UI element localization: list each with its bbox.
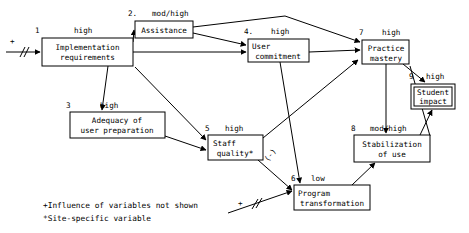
node-strength-assistance: mod/high [152, 9, 189, 18]
edge-staff-quality-to-practice-mastery [263, 60, 358, 138]
node-adequacy-of-user-preparation[interactable]: Adequacy of user preparation 3 high [66, 101, 165, 138]
node-line1-stabilization: Stabilization [362, 140, 421, 149]
node-staff-quality[interactable]: Staff quality* 5 high [205, 124, 263, 160]
external-input-sign-program: + [238, 199, 243, 208]
node-strength-practice-mastery: high [382, 28, 400, 37]
node-implementation-requirements[interactable]: Implementation requirements 1 high [35, 26, 133, 66]
node-number-assistance: 2. [128, 9, 137, 18]
edge-program-transformation-to-stabilization [352, 163, 375, 185]
node-line1-implementation-requirements: Implementation [55, 43, 119, 52]
node-line1-practice-mastery: Practice [368, 44, 405, 53]
node-line1-program-transformation: Program [298, 189, 330, 198]
causal-network-diagram: Implementation requirements 1 high Assis… [0, 0, 469, 233]
node-number-implementation-requirements: 1 [35, 26, 40, 35]
node-line2-student-impact: impact [419, 97, 446, 106]
node-number-adequacy: 3 [66, 101, 71, 110]
node-strength-user-commitment: high [271, 27, 289, 36]
node-number-user-commitment: 4. [244, 27, 253, 36]
node-strength-staff-quality: high [225, 124, 243, 133]
node-line1-adequacy: Adequacy of [92, 116, 142, 125]
node-line2-staff-quality: quality* [217, 149, 254, 158]
node-line1-staff-quality: Staff [213, 139, 236, 148]
node-line2-user-commitment: commitment [255, 52, 301, 61]
legend-line-1: +Influence of variables not shown [43, 201, 198, 210]
node-strength-adequacy: high [100, 101, 118, 110]
node-strength-program-transformation: low [311, 174, 325, 183]
node-line2-program-transformation: transformation [300, 199, 364, 208]
edge-assistance-to-user-commitment [193, 33, 246, 45]
node-number-program-transformation: 6 [291, 174, 296, 183]
node-line1-student-impact: Student [417, 88, 449, 97]
node-number-stabilization: 8 [351, 124, 356, 133]
node-student-impact[interactable]: Student impact 9 high [409, 72, 455, 109]
edge-user-commitment-to-program-transformation [280, 62, 300, 183]
node-strength-stabilization: mod/high [370, 124, 407, 133]
edge-adequacy-to-staff-quality [165, 136, 206, 150]
node-user-commitment[interactable]: User commitment 4. high [244, 27, 309, 62]
node-stabilization-of-use[interactable]: Stabilization of use 8 mod/high [351, 124, 430, 162]
node-line1-assistance: Assistance [141, 26, 187, 35]
node-strength-student-impact: high [426, 72, 444, 81]
edge-user-commitment-to-practice-mastery [309, 50, 360, 52]
node-line1-user-commitment: User [252, 42, 271, 51]
node-number-practice-mastery: 7 [359, 28, 364, 37]
node-strength-implementation-requirements: high [74, 26, 92, 35]
legend-line-2: *Site-specific variable [43, 214, 151, 223]
node-line2-stabilization: of use [378, 150, 406, 159]
node-practice-mastery[interactable]: Practice mastery 7 high [359, 28, 409, 64]
external-input-sign-implementation: + [10, 37, 15, 46]
node-assistance[interactable]: Assistance 2. mod/high [128, 9, 193, 38]
node-number-student-impact: 9 [409, 72, 414, 81]
node-line2-implementation-requirements: requirements [60, 53, 115, 62]
node-line2-adequacy: user preparation [80, 126, 153, 135]
node-number-staff-quality: 5 [205, 124, 210, 133]
node-line2-practice-mastery: mastery [370, 54, 402, 63]
edge-staff-quality-to-program-transformation [258, 160, 292, 190]
edge-label-staff-quality-negative: (-) [262, 147, 278, 163]
